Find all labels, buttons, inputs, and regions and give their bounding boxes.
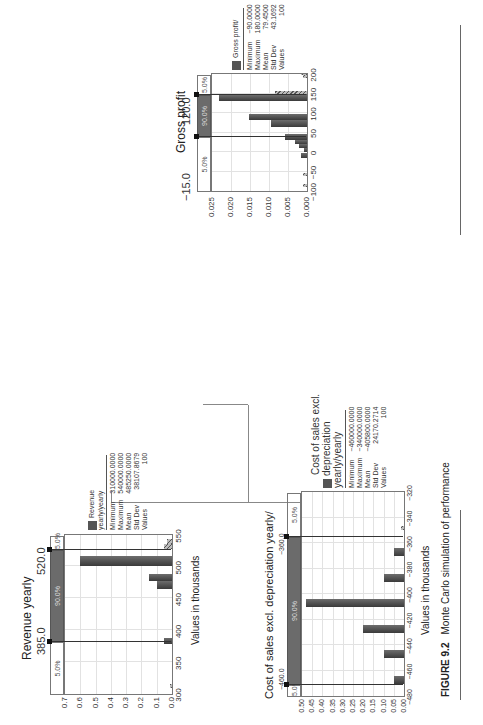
cost-x-label: Values in thousands <box>420 546 431 635</box>
gross-band-left: 5.0% <box>197 137 211 192</box>
cost-legend: Cost of sales excl. depreciation yearly/… <box>310 388 388 488</box>
bottom-rule <box>460 510 461 700</box>
gross-bar <box>303 75 307 78</box>
revenue-x-label: Values in thousands <box>190 556 201 645</box>
cost-bar <box>394 676 404 684</box>
top-rule <box>460 25 461 235</box>
gross-low-marker-handle[interactable] <box>194 134 199 139</box>
cost-high-marker <box>287 536 403 537</box>
revenue-bar <box>157 581 172 589</box>
gross-bar <box>301 153 307 158</box>
cost-bar <box>394 548 404 556</box>
cost-bar <box>363 625 404 633</box>
gross-low-marker <box>197 136 306 137</box>
gross-plot-area <box>211 73 308 192</box>
cost-bar <box>306 599 404 607</box>
cost-legend-swatch <box>323 479 332 488</box>
gross-y-axis: 0.025 0.020 0.015 0.010 0.005 0.000 <box>211 195 306 225</box>
cost-stats: Minimum−460000.0000 Maximum−340000.0000 … <box>345 410 388 488</box>
gross-band-right: 5.0% <box>197 75 211 95</box>
gross-legend: Gross profit/ Minimum−90.0000 Maximum180… <box>232 8 286 70</box>
revenue-bar <box>80 556 172 566</box>
gross-x-axis: −100 −50 0 50 100 150 200 <box>309 75 321 192</box>
figure-caption: FIGURE 9.2Monte Carlo simulation of perf… <box>440 462 451 697</box>
gross-legend-swatch <box>232 61 241 70</box>
cost-low-marker <box>287 684 403 685</box>
connector-join <box>248 405 249 503</box>
figure-caption-text: Monte Carlo simulation of performance <box>440 462 451 634</box>
revenue-bar <box>167 539 172 544</box>
cost-bar <box>384 650 404 658</box>
revenue-plot-area <box>64 534 173 695</box>
revenue-low-marker <box>50 641 171 642</box>
revenue-low-marker-handle[interactable] <box>47 639 52 644</box>
revenue-bar <box>149 574 172 581</box>
revenue-legend-swatch <box>88 521 97 530</box>
revenue-title: Revenue yearly <box>20 577 34 660</box>
gross-band-mid: 90.0% <box>197 95 211 137</box>
cost-low-marker-handle[interactable] <box>284 682 289 687</box>
cost-x-axis: −480 −460 −440 −420 −400 −380 −360 −340 … <box>406 493 418 697</box>
gross-high-marker-handle[interactable] <box>194 92 199 97</box>
gross-bar <box>271 120 307 127</box>
revenue-high-marker-label: 520.0 <box>35 547 47 575</box>
gross-bar <box>249 114 307 120</box>
figure-label: FIGURE 9.2 <box>440 643 451 697</box>
revenue-x-axis: 300 350 400 450 500 550 <box>174 536 186 695</box>
cost-title: Cost of sales excl. depreciation yearly/ <box>263 511 275 699</box>
gross-high-marker <box>197 94 306 95</box>
cost-plot-area <box>301 491 405 697</box>
revenue-band-left: 5.0% <box>50 642 64 695</box>
revenue-high-marker <box>50 549 171 550</box>
gross-bar <box>285 134 307 140</box>
cost-band-mid: 90.0% <box>287 537 301 685</box>
cost-legend-title-1: Cost of sales excl. <box>310 388 321 488</box>
revenue-bar <box>170 684 172 688</box>
gross-bar <box>303 184 307 187</box>
cost-band-left: 5.0% <box>287 685 301 697</box>
revenue-low-marker-label: 385.0 <box>35 627 47 655</box>
cost-band-right: 5.0% <box>287 493 301 537</box>
gross-bar <box>295 140 307 144</box>
gross-bar <box>301 73 307 75</box>
revenue-y-axis: 0.7 0.6 0.5 0.4 0.3 0.2 0.1 0.0 <box>64 697 171 725</box>
revenue-stats: Minimum310000.0000 Maximum540000.0000 Me… <box>106 455 149 530</box>
cost-bar <box>401 526 404 530</box>
revenue-high-marker-handle[interactable] <box>47 547 52 552</box>
revenue-legend: Revenue yearly/yearly Minimum310000.0000… <box>88 455 149 530</box>
revenue-band-right: 5.0% <box>50 536 64 550</box>
connector-stem <box>203 404 248 405</box>
cost-high-marker-handle[interactable] <box>284 534 289 539</box>
gross-bar <box>303 173 307 176</box>
gross-bar <box>219 95 307 101</box>
cost-y-axis: 0.50 0.45 0.40 0.35 0.30 0.25 0.20 0.15 … <box>301 699 403 725</box>
gross-low-marker-label: −15.0 <box>180 173 192 201</box>
gross-high-marker-label: 120.0 <box>180 97 192 125</box>
cost-bar <box>384 574 404 582</box>
gross-bar <box>299 144 307 148</box>
gross-bar <box>304 148 307 152</box>
revenue-band-mid: 90.0% <box>50 550 64 642</box>
gross-stats: Minimum−90.0000 Maximum180.0000 Mean79.4… <box>243 8 286 70</box>
figure-page: Gross profit −15.0 120.0 5.0% 90.0% 5.0%… <box>0 0 483 725</box>
